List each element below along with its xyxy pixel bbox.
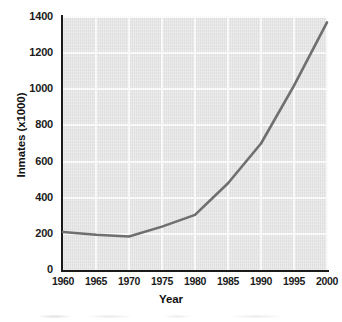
x-tick-label: 1985: [217, 275, 239, 287]
x-axis-line: [61, 270, 329, 272]
y-tick-label: 1000: [29, 83, 53, 94]
y-tick-labels: 0200400600800100012001400: [0, 0, 57, 322]
x-axis-title: Year: [0, 293, 342, 305]
y-tick-label: 600: [35, 156, 53, 167]
x-tick-label: 1965: [85, 275, 107, 287]
y-tick-label: 800: [35, 119, 53, 130]
y-tick-label: 400: [35, 192, 53, 203]
chart-figure: 0200400600800100012001400 19601965197019…: [0, 0, 342, 322]
y-tick-label: 200: [35, 228, 53, 239]
y-tick-label: 1200: [29, 47, 53, 58]
y-tick-label: 0: [47, 264, 53, 275]
scan-artifact: [18, 313, 324, 320]
x-tick-label: 1970: [118, 275, 140, 287]
x-tick-label: 1960: [52, 275, 74, 287]
x-tick-label: 1980: [184, 275, 206, 287]
series-inmates: [63, 17, 327, 270]
x-tick-labels: 196019651970197519801985199019952000: [0, 275, 342, 291]
x-tick-label: 1990: [250, 275, 272, 287]
series-line: [63, 22, 327, 236]
x-tick-label: 1995: [283, 275, 305, 287]
y-axis-title: Inmates (x1000): [15, 65, 27, 205]
x-tick-label: 1975: [151, 275, 173, 287]
x-tick-label: 2000: [316, 275, 338, 287]
y-tick-label: 1400: [29, 11, 53, 22]
